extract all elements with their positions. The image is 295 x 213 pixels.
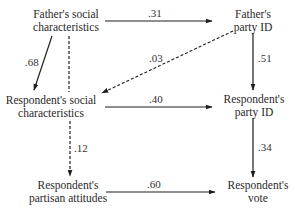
coef-father-party-resp-social: .03 (149, 52, 163, 64)
coef-father-party-resp-party: .51 (258, 52, 272, 64)
node-resp-party-line2: party ID (224, 106, 285, 119)
node-resp-social: Respondent's social characteristics (6, 94, 97, 120)
node-resp-vote-line2: vote (228, 192, 289, 205)
node-resp-attitudes-line1: Respondent's (29, 179, 107, 192)
node-father-party-line2: party ID (234, 21, 273, 34)
node-resp-vote: Respondent's vote (228, 179, 289, 205)
coef-father-social-father-party: .31 (148, 7, 162, 19)
node-resp-attitudes: Respondent's partisan attitudes (29, 179, 107, 205)
coef-resp-party-resp-vote: .34 (258, 141, 272, 153)
node-resp-social-line2: characteristics (6, 107, 97, 120)
node-father-social: Father's social characteristics (33, 8, 99, 34)
coef-resp-social-resp-party: .40 (149, 93, 163, 105)
coef-resp-social-resp-attitudes: .12 (74, 142, 88, 154)
node-father-social-line1: Father's social (33, 8, 99, 21)
node-resp-vote-line1: Respondent's (228, 179, 289, 192)
node-resp-party: Respondent's party ID (224, 93, 285, 119)
edge-father-party-to-resp-social (102, 31, 233, 93)
node-father-party: Father's party ID (234, 8, 273, 34)
coef-father-social-resp-social: .68 (25, 56, 39, 68)
node-resp-attitudes-line2: partisan attitudes (29, 192, 107, 205)
node-resp-party-line1: Respondent's (224, 93, 285, 106)
path-diagram: Father's social characteristics Father's… (0, 0, 295, 213)
node-father-social-line2: characteristics (33, 21, 99, 34)
node-resp-social-line1: Respondent's social (6, 94, 97, 107)
node-father-party-line1: Father's (234, 8, 273, 21)
coef-resp-attitudes-resp-vote: .60 (147, 178, 161, 190)
